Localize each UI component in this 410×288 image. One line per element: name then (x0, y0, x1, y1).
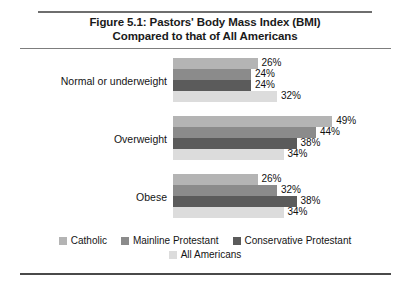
legend-item-mainline-protestant: Mainline Protestant (121, 234, 219, 247)
bar-row: 32% (173, 91, 410, 102)
bar-stack: 26%24%24%32% (173, 58, 410, 104)
bar-value-label: 34% (288, 206, 308, 218)
bar-stack: 49%44%38%34% (173, 116, 410, 162)
bar-row: 34% (173, 207, 410, 218)
divider-top (38, 11, 372, 13)
bar-conservative-protestant (173, 80, 251, 91)
category-label: Obese (0, 174, 167, 220)
figure-container: Figure 5.1: Pastors' Body Mass Index (BM… (0, 0, 410, 288)
bar-value-label: 32% (281, 90, 301, 102)
bar-conservative-protestant (173, 138, 297, 149)
bar-all-americans (173, 207, 284, 218)
legend-label: Catholic (71, 234, 107, 247)
bar-mainline-protestant (173, 185, 277, 196)
bar-row: 26% (173, 58, 410, 69)
bar-value-label: 34% (288, 148, 308, 160)
bar-row: 24% (173, 69, 410, 80)
legend-label: Mainline Protestant (133, 234, 219, 247)
bar-group: Overweight49%44%38%34% (0, 116, 410, 162)
bar-mainline-protestant (173, 127, 316, 138)
category-label: Overweight (0, 116, 167, 162)
bar-all-americans (173, 91, 277, 102)
legend-swatch-icon (233, 237, 241, 245)
bar-row: 49% (173, 116, 410, 127)
bar-group: Normal or underweight26%24%24%32% (0, 58, 410, 104)
legend-swatch-icon (169, 251, 177, 259)
figure-title-line-1: Figure 5.1: Pastors' Body Mass Index (BM… (0, 15, 410, 29)
legend-item-conservative-protestant: Conservative Protestant (233, 234, 352, 247)
divider-under-title (20, 48, 391, 49)
bar-row: 44% (173, 127, 410, 138)
bar-value-label: 24% (255, 79, 275, 91)
bar-all-americans (173, 149, 284, 160)
figure-title: Figure 5.1: Pastors' Body Mass Index (BM… (0, 15, 410, 43)
bar-row: 32% (173, 185, 410, 196)
bar-value-label: 32% (281, 184, 301, 196)
chart-legend: CatholicMainline ProtestantConservative … (0, 234, 410, 261)
bar-chart-plot: Normal or underweight26%24%24%32%Overwei… (0, 56, 410, 228)
legend-label: Conservative Protestant (245, 234, 352, 247)
category-label: Normal or underweight (0, 58, 167, 104)
legend-item-all-americans: All Americans (169, 248, 242, 261)
bar-group: Obese26%32%38%34% (0, 174, 410, 220)
bar-catholic (173, 58, 258, 69)
bar-value-label: 26% (262, 173, 282, 185)
bar-catholic (173, 116, 332, 127)
divider-bottom (20, 273, 391, 275)
bar-stack: 26%32%38%34% (173, 174, 410, 220)
bar-row: 34% (173, 149, 410, 160)
legend-item-catholic: Catholic (59, 234, 107, 247)
bar-conservative-protestant (173, 196, 297, 207)
figure-title-line-2: Compared to that of All Americans (0, 29, 410, 43)
legend-swatch-icon (59, 237, 67, 245)
legend-label: All Americans (181, 248, 242, 261)
legend-row-primary: CatholicMainline ProtestantConservative … (0, 234, 410, 247)
bar-value-label: 44% (320, 126, 340, 138)
legend-swatch-icon (121, 237, 129, 245)
bar-catholic (173, 174, 258, 185)
legend-row-secondary: All Americans (0, 248, 410, 261)
bar-mainline-protestant (173, 69, 251, 80)
